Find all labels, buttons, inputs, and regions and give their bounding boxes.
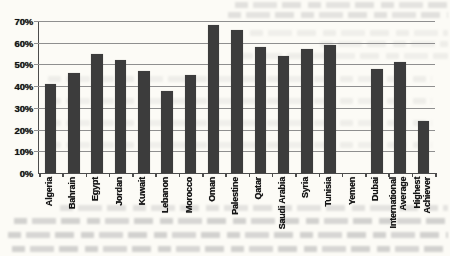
- plot-area: [38, 21, 435, 174]
- bar-slot: [272, 21, 295, 173]
- x-category-label: Syria: [301, 177, 311, 198]
- bar: [45, 84, 57, 173]
- y-tick-label-50: 50%: [0, 59, 33, 70]
- x-label-cell: Lebanon: [154, 177, 177, 237]
- bars: [39, 21, 435, 173]
- x-label-cell: Morocco: [178, 177, 201, 237]
- x-category-label: Dubai: [371, 177, 381, 201]
- bar-slot: [179, 21, 202, 173]
- x-label-cell: Highest Achiever: [411, 177, 434, 237]
- x-label-cell: Tunisia: [318, 177, 341, 237]
- bar: [301, 49, 313, 173]
- x-category-label: Egypt: [91, 177, 101, 201]
- x-category-label: Morocco: [185, 177, 195, 213]
- x-category-label: Palestine: [231, 177, 241, 215]
- bar: [185, 75, 197, 173]
- x-tick: [435, 173, 437, 177]
- x-category-label: Highest Achiever: [413, 177, 432, 213]
- bar: [278, 56, 290, 173]
- scanned-page: 0%10%20%30%40%50%60%70% AlgeriaBahrainEg…: [0, 0, 450, 256]
- x-label-cell: Kuwait: [131, 177, 154, 237]
- x-category-label: Tunisia: [324, 177, 334, 206]
- bar-slot: [249, 21, 272, 173]
- x-label-cell: Algeria: [38, 177, 61, 237]
- x-label-cell: Jordan: [108, 177, 131, 237]
- x-category-label: Saudi Arabia: [278, 177, 288, 229]
- x-label-cell: Yemen: [341, 177, 364, 237]
- bar-slot: [132, 21, 155, 173]
- bar: [231, 30, 243, 173]
- bar-slot: [202, 21, 225, 173]
- bar: [161, 91, 173, 174]
- x-label-cell: Bahrain: [61, 177, 84, 237]
- bar-slot: [319, 21, 342, 173]
- x-category-label: Oman: [208, 177, 218, 202]
- x-label-cell: Saudi Arabia: [271, 177, 294, 237]
- x-category-label: Kuwait: [138, 177, 148, 205]
- bar-slot: [109, 21, 132, 173]
- x-category-label: Algeria: [45, 177, 55, 206]
- bar-slot: [225, 21, 248, 173]
- bar: [91, 54, 103, 173]
- x-category-label: International Average: [389, 177, 408, 228]
- y-tick-label-10: 10%: [0, 146, 33, 157]
- y-tick-label-40: 40%: [0, 81, 33, 92]
- bar-slot: [412, 21, 435, 173]
- ghost-text-line: [228, 12, 448, 18]
- x-label-cell: Egypt: [85, 177, 108, 237]
- x-category-label: Lebanon: [161, 177, 171, 213]
- bar: [394, 62, 406, 173]
- x-category-label: Bahrain: [68, 177, 78, 209]
- bar-slot: [62, 21, 85, 173]
- x-category-label: Qatar: [254, 177, 264, 200]
- x-label-cell: International Average: [387, 177, 410, 237]
- x-label-cell: Qatar: [248, 177, 271, 237]
- x-label-cell: Syria: [294, 177, 317, 237]
- y-tick-label-70: 70%: [0, 16, 33, 27]
- x-category-label: Jordan: [115, 177, 125, 206]
- y-axis: 0%10%20%30%40%50%60%70%: [0, 21, 33, 173]
- y-tick-label-20: 20%: [0, 124, 33, 135]
- x-label-cell: Palestine: [224, 177, 247, 237]
- bar-slot: [86, 21, 109, 173]
- bar-slot: [295, 21, 318, 173]
- bar-slot: [39, 21, 62, 173]
- x-axis-labels: AlgeriaBahrainEgyptJordanKuwaitLebanonMo…: [38, 177, 434, 237]
- ghost-text-line: [12, 246, 448, 252]
- bar-slot: [388, 21, 411, 173]
- x-category-label: Yemen: [348, 177, 358, 205]
- bar: [68, 73, 80, 173]
- y-tick-label-0: 0%: [0, 168, 33, 179]
- x-label-cell: Dubai: [364, 177, 387, 237]
- bar: [115, 60, 127, 173]
- y-tick-label-30: 30%: [0, 102, 33, 113]
- ghost-text-line: [235, 2, 448, 8]
- bar: [255, 47, 267, 173]
- y-tick-label-60: 60%: [0, 37, 33, 48]
- x-label-cell: Oman: [201, 177, 224, 237]
- bar-slot: [365, 21, 388, 173]
- bar-slot: [342, 21, 365, 173]
- bar: [324, 45, 336, 173]
- bar: [138, 71, 150, 173]
- bar: [208, 25, 220, 173]
- bar-slot: [155, 21, 178, 173]
- bar: [371, 69, 383, 173]
- bar: [418, 121, 430, 173]
